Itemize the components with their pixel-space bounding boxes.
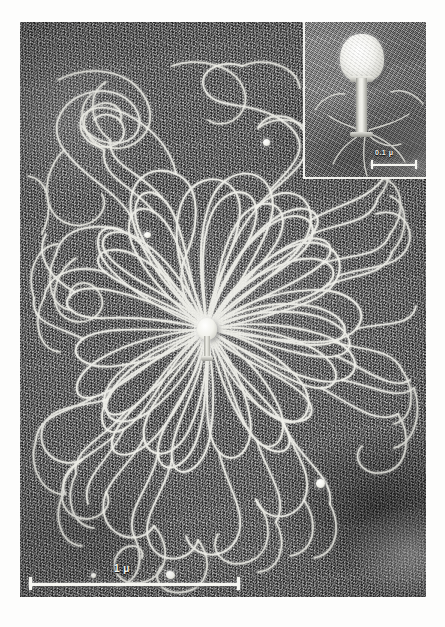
inset-micrograph: 0.1 μ	[303, 22, 426, 179]
inset-phage-tail	[356, 78, 367, 136]
inset-scale-bar-tick-right	[415, 160, 417, 169]
inset-phage-baseplate	[350, 132, 373, 137]
debris-particle-lower-right	[316, 479, 325, 488]
main-scale-bar-line	[29, 583, 240, 586]
debris-particle-lower-left	[91, 573, 96, 578]
debris-particle-upper-right	[263, 139, 270, 146]
inset-scale-bar-tick-left	[371, 160, 373, 169]
main-scale-bar-label: 1 μ	[114, 563, 130, 574]
inset-scale-bar-label: 0.1 μ	[375, 149, 393, 156]
inset-phage-head-texture	[340, 34, 384, 82]
debris-particle-bottom-center	[166, 571, 175, 579]
central-phage-baseplate	[201, 356, 213, 361]
inset-scale-bar-line	[371, 164, 417, 166]
figure-plate: 1 μ 0.1 μ	[0, 0, 445, 627]
main-scale-bar-tick-right	[237, 577, 240, 590]
main-scale-bar-tick-left	[29, 577, 32, 590]
debris-particle-upper-left	[144, 232, 151, 238]
inset-phage-head	[340, 34, 384, 82]
